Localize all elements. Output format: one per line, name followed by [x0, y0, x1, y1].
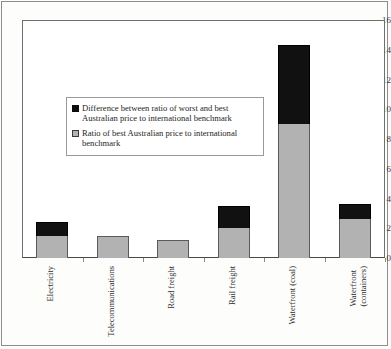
- bar-segment-difference: [278, 45, 310, 124]
- legend-item-difference: Difference between ratio of worst and be…: [72, 103, 257, 124]
- legend-item-best-ratio: Ratio of best Australian price to intern…: [72, 128, 257, 149]
- bar-segment-difference: [36, 222, 68, 235]
- chart-figure: 0246810121416 ElectricityTelecommunicati…: [0, 0, 391, 349]
- bar-5: [278, 45, 310, 258]
- bar-segment-best-ratio: [157, 240, 189, 258]
- x-axis-tick-mark: [264, 258, 265, 262]
- bar-6: [339, 204, 371, 258]
- x-axis-label-5: Waterfront (coal): [288, 266, 298, 325]
- bar-segment-best-ratio: [97, 236, 129, 258]
- legend-swatch-dark-icon: [72, 105, 79, 112]
- x-axis-label-1: Electricity: [46, 266, 56, 301]
- legend-swatch-light-icon: [72, 130, 79, 137]
- bar-4: [218, 206, 250, 258]
- bar-segment-best-ratio: [278, 124, 310, 258]
- bar-segment-best-ratio: [218, 228, 250, 258]
- x-axis-label-3: Road freight: [167, 266, 177, 309]
- legend-label-best-ratio: Ratio of best Australian price to intern…: [82, 128, 257, 149]
- x-axis-label-6: Waterfront (containers): [349, 266, 368, 307]
- bar-segment-difference: [339, 204, 371, 219]
- bar-segment-difference: [218, 206, 250, 228]
- x-axis-label-2: Telecommunications: [107, 266, 117, 337]
- bar-segment-best-ratio: [339, 219, 371, 258]
- bar-segment-best-ratio: [36, 236, 68, 258]
- legend-label-difference: Difference between ratio of worst and be…: [82, 103, 257, 124]
- x-axis-tick-mark: [83, 258, 84, 262]
- bar-3: [157, 240, 189, 258]
- x-axis-tick-mark: [385, 258, 386, 262]
- x-axis-tick-mark: [204, 258, 205, 262]
- bar-2: [97, 236, 129, 258]
- chart-legend: Difference between ratio of worst and be…: [66, 97, 264, 156]
- x-axis-label-4: Rail freight: [228, 266, 238, 305]
- x-axis-tick-mark: [325, 258, 326, 262]
- bar-1: [36, 222, 68, 258]
- x-axis-tick-mark: [143, 258, 144, 262]
